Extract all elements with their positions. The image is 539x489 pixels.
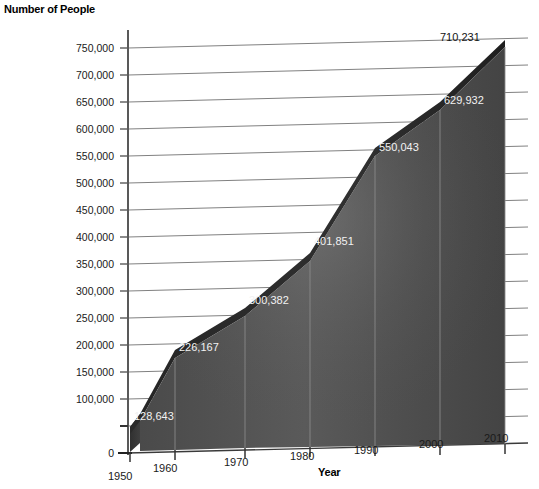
data-label: 710,231 [440,31,480,43]
x-tick-label: 1960 [153,462,177,474]
y-tick-label: 350,000 [46,258,114,270]
x-tick-label: 1980 [290,450,314,462]
y-tick-label: 400,000 [46,231,114,243]
y-tick-label: 750,000 [46,42,114,54]
y-tick-label: 200,000 [46,339,114,351]
data-label: 128,643 [134,410,174,422]
data-label: 226,167 [179,341,219,353]
y-tick-label: 300,000 [46,285,114,297]
y-tick-label: 450,000 [46,204,114,216]
x-tick-label: 2000 [419,438,443,450]
y-tick-label: 550,000 [46,150,114,162]
y-tick-label: 250,000 [46,312,114,324]
x-tick-label: 1970 [224,456,248,468]
y-tick-label: 600,000 [46,123,114,135]
y-tick-label: 0 [46,447,114,459]
x-tick-label: 2010 [484,432,508,444]
data-label: 401,851 [314,235,354,247]
x-tick-label: 1950 [108,470,132,482]
y-tick-label: 150,000 [46,366,114,378]
y-tick-label: 100,000 [46,393,114,405]
data-label: 300,382 [249,294,289,306]
x-tick-label: 1990 [354,444,378,456]
area-chart: Number of People Year [0,0,539,489]
y-tick-label: 650,000 [46,96,114,108]
y-axis-line [118,30,132,455]
y-tick-label: 700,000 [46,69,114,81]
data-label: 629,932 [444,94,484,106]
y-tick-label: 500,000 [46,177,114,189]
data-label: 550,043 [379,141,419,153]
